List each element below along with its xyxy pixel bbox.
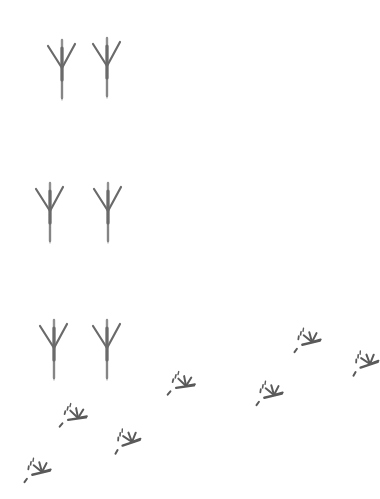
bird-footprint-icon [93, 320, 120, 380]
bird-tracks-illustration [0, 0, 380, 499]
small-footprint-icon [166, 370, 196, 394]
large-tracks [36, 38, 121, 380]
bird-footprint-icon [94, 183, 121, 243]
bird-footprint-icon [40, 320, 67, 380]
small-footprint-icon [253, 379, 284, 406]
small-footprint-icon [348, 347, 380, 375]
bird-footprint-icon [48, 40, 75, 100]
small-footprint-icon [21, 456, 52, 483]
bird-footprint-icon [36, 183, 63, 243]
small-footprint-icon [110, 425, 143, 453]
small-footprint-icon [58, 402, 88, 426]
small-footprint-icon [291, 326, 322, 353]
small-tracks [21, 326, 380, 483]
bird-footprint-icon [93, 38, 120, 98]
